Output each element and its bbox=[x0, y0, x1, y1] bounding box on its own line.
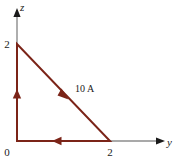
current-arrow-hypotenuse-icon bbox=[58, 89, 69, 100]
origin-label: 0 bbox=[4, 146, 10, 158]
current-value-label: 10 A bbox=[75, 83, 95, 94]
current-arrow-left-leg-icon bbox=[13, 89, 21, 99]
figure-container: z y 2 2 0 10 A bbox=[0, 0, 177, 165]
z-axis-tick-2-label: 2 bbox=[4, 38, 10, 50]
y-axis-arrowhead-icon bbox=[156, 137, 165, 144]
y-axis-tick-2-label: 2 bbox=[107, 146, 113, 158]
current-arrow-bottom-leg-icon bbox=[52, 137, 62, 145]
y-axis-label: y bbox=[166, 136, 172, 148]
triangular-loop-diagram: z y 2 2 0 10 A bbox=[0, 0, 177, 165]
z-axis-label: z bbox=[19, 1, 25, 13]
